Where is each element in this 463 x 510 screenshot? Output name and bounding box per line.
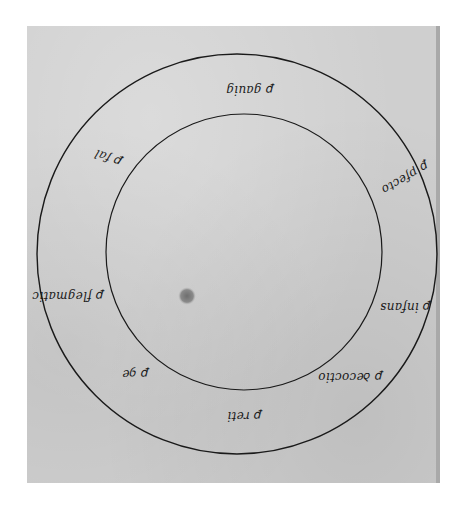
center-dot xyxy=(178,287,196,305)
inner-circle xyxy=(106,114,382,390)
concentric-circle-diagram xyxy=(0,0,463,510)
label-lower-right: ꝑ ꝺecoctio xyxy=(318,369,383,386)
label-left: ꝑ flegmatic xyxy=(32,289,104,303)
label-lower-left: ꝑ ꝯe xyxy=(122,366,149,383)
label-right: ꝑ infans xyxy=(380,300,431,314)
label-bottom: ꝑ reti xyxy=(227,409,262,423)
label-top: ꝑ gauig xyxy=(226,83,274,97)
